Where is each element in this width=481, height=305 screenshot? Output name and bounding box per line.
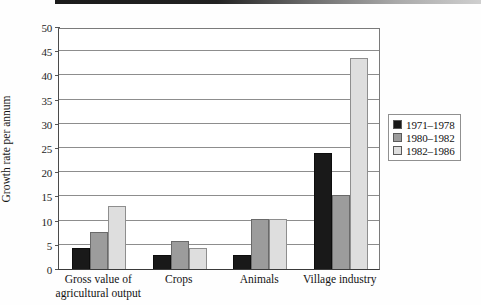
legend: 1971–19781980–19821982–1986 [388, 114, 461, 161]
legend-item: 1971–1978 [393, 118, 455, 131]
y-tick-label: 50 [41, 22, 52, 34]
bar [171, 241, 189, 269]
legend-label: 1980–1982 [406, 132, 455, 144]
bar [269, 219, 287, 269]
x-axis-category-label-line: Animals [240, 273, 279, 285]
legend-swatch [393, 120, 402, 129]
bar [189, 248, 207, 269]
y-tick-label: 40 [41, 70, 52, 82]
bar [251, 219, 269, 269]
bar-group [301, 29, 382, 269]
bar [332, 195, 350, 269]
legend-swatch [393, 146, 402, 155]
scan-artifact-band [55, 0, 481, 4]
bar [108, 206, 126, 269]
legend-item: 1980–1982 [393, 131, 455, 144]
y-tick-label: 10 [41, 216, 52, 228]
bar [350, 58, 368, 269]
x-axis-category-label: Village industry [280, 273, 401, 287]
x-axis-category-label-line: agricultural output [38, 287, 159, 301]
bar [314, 153, 332, 269]
bar-group [140, 29, 221, 269]
y-tick-label: 20 [41, 167, 52, 179]
y-tick-label: 25 [41, 143, 52, 155]
x-axis-category-label-line: Village industry [303, 273, 377, 285]
legend-label: 1971–1978 [406, 119, 455, 131]
chart-figure: Growth rate per annum 051015202530354045… [0, 0, 481, 305]
y-tick-label: 35 [41, 95, 52, 107]
y-tick-label: 30 [41, 119, 52, 131]
legend-swatch [393, 133, 402, 142]
bar [90, 232, 108, 269]
bar-group [220, 29, 301, 269]
plot-area [58, 28, 380, 270]
x-axis-category-label-line: Crops [165, 273, 192, 285]
bar-group [59, 29, 140, 269]
y-tick-label: 15 [41, 191, 52, 203]
y-axis-ticks: 05101520253035404550 [0, 28, 60, 270]
bar [72, 248, 90, 269]
y-tick-label: 5 [47, 240, 52, 252]
bar [233, 255, 251, 269]
legend-label: 1982–1986 [406, 145, 455, 157]
bar [153, 255, 171, 269]
y-tick-label: 45 [41, 46, 52, 58]
legend-item: 1982–1986 [393, 144, 455, 157]
